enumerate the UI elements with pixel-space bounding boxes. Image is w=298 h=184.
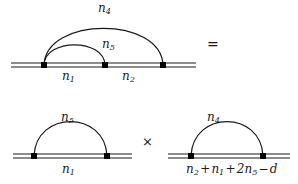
label-bottom-right-arc-n4: n4: [207, 111, 220, 124]
vertex-dot: [260, 153, 266, 159]
expression-operator: +: [224, 162, 236, 176]
expression-term: 2n: [237, 162, 252, 176]
expression-operator: +: [199, 162, 211, 176]
label-bottom-left-line-n1: n1: [62, 163, 75, 176]
expression-operator: −: [257, 162, 269, 176]
vertex-dot: [160, 62, 166, 68]
expression-term: n: [211, 162, 219, 176]
label-right-propagator-n2: n2: [122, 70, 135, 83]
label-left-propagator-n1: n1: [62, 70, 75, 83]
bottom-right-arc: [191, 122, 263, 157]
vertex-dot: [31, 153, 37, 159]
expression-term: n: [186, 162, 194, 176]
vertex-dot: [102, 62, 108, 68]
equals-sign: =: [207, 37, 219, 51]
top-inner-arc: [44, 45, 105, 65]
feynman-diagram-figure: n4 n5 n1 n2 = n5 n1 × n4 n2+n1+2n5−d: [0, 0, 298, 184]
vertex-dot: [104, 153, 110, 159]
diagram-vector-layer: [0, 0, 298, 184]
label-bottom-right-line-expression: n2+n1+2n5−d: [186, 163, 277, 176]
vertex-dot: [41, 62, 47, 68]
times-sign: ×: [142, 135, 153, 148]
label-bottom-left-arc-n5: n5: [61, 111, 74, 124]
bottom-right-double-line: [168, 154, 290, 158]
label-inner-arc-n5: n5: [102, 38, 115, 51]
bottom-left-double-line: [13, 154, 132, 158]
bottom-left-arc: [34, 122, 107, 157]
vertex-dot: [188, 153, 194, 159]
expression-term: d: [270, 162, 278, 176]
label-outer-arc-n4: n4: [98, 2, 111, 15]
